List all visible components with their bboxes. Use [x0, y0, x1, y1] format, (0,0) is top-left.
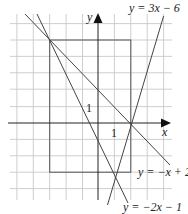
x-tick-label-1: 1 — [111, 126, 117, 140]
x-axis-label: x — [161, 125, 168, 139]
label-y-neg-x-plus-2: y = −x + 2 — [137, 165, 188, 179]
label-y-3x-minus-6: y = 3x − 6 — [128, 1, 180, 15]
coordinate-diagram: y x 1 1 y = 3x − 6 y = −x + 2 y = −2x − … — [0, 0, 188, 214]
y-tick-label-1: 1 — [86, 101, 92, 115]
y-axis-arrow-icon — [94, 13, 103, 23]
y-axis-label: y — [86, 10, 93, 24]
label-y-neg-2x-minus-1: y = −2x − 1 — [122, 200, 182, 214]
